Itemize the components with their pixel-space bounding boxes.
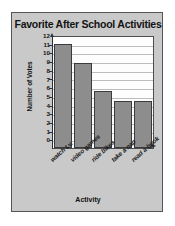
y-tick-mark <box>49 132 52 133</box>
y-tick-mark <box>49 79 52 80</box>
y-tick-mark <box>49 140 52 141</box>
y-tick-3: 3 <box>24 111 50 117</box>
y-tick-12: 12 <box>24 33 50 39</box>
chart-title: Favorite After School Activities <box>12 18 164 30</box>
y-tick-mark <box>49 106 52 107</box>
y-axis-line <box>52 36 53 149</box>
y-tick-10: 10 <box>24 50 50 56</box>
plot-wrap: 12 11 10 9 8 7 6 5 4 3 2 1 0 watch t.v. … <box>44 36 154 156</box>
y-tick-0: 0 <box>24 137 50 143</box>
y-tick-mark <box>49 114 52 115</box>
y-tick-mark <box>49 88 52 89</box>
y-tick-6: 6 <box>24 85 50 91</box>
bar-video-games[interactable] <box>74 63 92 148</box>
y-tick-mark <box>49 71 52 72</box>
y-tick-5: 5 <box>24 94 50 100</box>
y-tick-9: 9 <box>24 59 50 65</box>
y-tick-8: 8 <box>24 68 50 74</box>
y-tick-mark <box>49 45 52 46</box>
y-tick-4: 4 <box>24 103 50 109</box>
y-tick-mark <box>49 53 52 54</box>
y-tick-1: 1 <box>24 129 50 135</box>
bar-watch-tv[interactable] <box>54 44 72 148</box>
y-tick-11: 11 <box>24 42 50 48</box>
y-axis-arrow-icon <box>50 33 54 37</box>
plot-area <box>52 36 154 149</box>
y-tick-mark <box>49 123 52 124</box>
y-tick-mark <box>49 62 52 63</box>
y-tick-2: 2 <box>24 120 50 126</box>
chart-card: Favorite After School Activities Number … <box>11 12 163 212</box>
y-tick-mark <box>49 97 52 98</box>
x-axis-title: Activity <box>12 196 164 203</box>
y-tick-7: 7 <box>24 77 50 83</box>
